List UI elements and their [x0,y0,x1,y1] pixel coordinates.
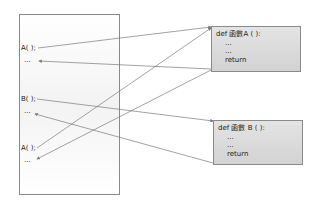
arrow-return-a2 [37,70,211,159]
arrow-return-a1 [39,61,211,69]
arrow-call-a2 [37,28,211,148]
arrow-call-a1 [38,27,211,48]
arrow-return-b [35,114,213,163]
arrow-call-b [37,99,213,121]
call-arrows [0,0,318,207]
